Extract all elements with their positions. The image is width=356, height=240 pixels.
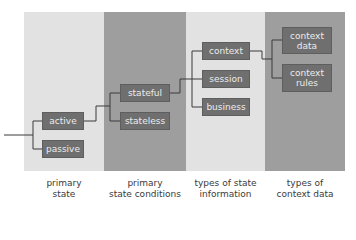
node-session-label: session [209, 74, 242, 84]
column-label-primary-state: primary state [24, 178, 104, 200]
node-business: business [202, 98, 250, 116]
label-line: types of [265, 178, 345, 189]
label-line: context data [265, 189, 345, 200]
label-line: types of state [186, 178, 265, 189]
label-line: primary [24, 178, 104, 189]
node-passive: passive [42, 140, 84, 158]
node-stateful-label: stateful [128, 88, 162, 98]
node-business-label: business [206, 102, 245, 112]
column-label-primary-state-conditions: primary state conditions [100, 178, 190, 200]
node-context-rules: context rules [282, 64, 332, 92]
label-line: information [186, 189, 265, 200]
node-active: active [42, 112, 84, 130]
node-context: context [202, 42, 250, 60]
node-context-data-line1: context [290, 31, 324, 41]
node-session: session [202, 70, 250, 88]
node-context-data: context data [282, 27, 332, 54]
node-context-data-line2: data [297, 41, 317, 51]
label-line: state [24, 189, 104, 200]
node-stateful: stateful [120, 84, 170, 102]
column-label-types-of-context-data: types of context data [265, 178, 345, 200]
node-stateless: stateless [120, 112, 170, 130]
label-line: state conditions [100, 189, 190, 200]
column-label-types-of-state-information: types of state information [186, 178, 265, 200]
node-context-rules-line2: rules [296, 78, 318, 88]
label-line: primary [100, 178, 190, 189]
node-context-label: context [209, 46, 243, 56]
node-context-rules-line1: context [290, 68, 324, 78]
node-stateless-label: stateless [125, 116, 165, 126]
node-active-label: active [49, 116, 76, 126]
node-passive-label: passive [46, 144, 80, 154]
